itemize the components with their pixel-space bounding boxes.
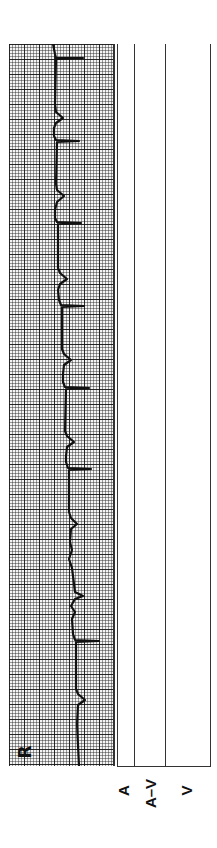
ladder-diagram-lanes [117, 44, 211, 767]
lane-label-av: A–V [142, 779, 159, 808]
lead-label-r: R [15, 745, 35, 758]
lane-divider-av-v [165, 44, 166, 766]
lane-label-ventricular: V [178, 785, 195, 795]
ecg-trace [9, 44, 113, 766]
lane-label-atrial: A [115, 785, 132, 796]
lane-divider-a-av [134, 44, 135, 766]
